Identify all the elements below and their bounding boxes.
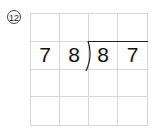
grid-cell[interactable] <box>60 70 89 98</box>
dividend-digit: 8 <box>89 42 118 70</box>
grid-cell[interactable] <box>118 70 147 98</box>
grid-cell[interactable] <box>31 97 60 125</box>
grid-cell[interactable] <box>89 70 118 98</box>
division-bracket-icon <box>83 41 93 71</box>
grid-cell[interactable] <box>89 14 118 42</box>
grid-cell[interactable] <box>60 97 89 125</box>
grid-cell[interactable] <box>60 14 89 42</box>
grid-cell[interactable] <box>31 70 60 98</box>
problem-number-badge: 12 <box>7 10 21 24</box>
grid-cell[interactable] <box>118 14 147 42</box>
divisor-digit: 7 <box>31 42 60 70</box>
grid-cell[interactable] <box>31 14 60 42</box>
grid-cell[interactable] <box>118 97 147 125</box>
division-vinculum <box>88 41 148 42</box>
dividend-digit: 7 <box>118 42 147 70</box>
grid-cell[interactable] <box>89 97 118 125</box>
